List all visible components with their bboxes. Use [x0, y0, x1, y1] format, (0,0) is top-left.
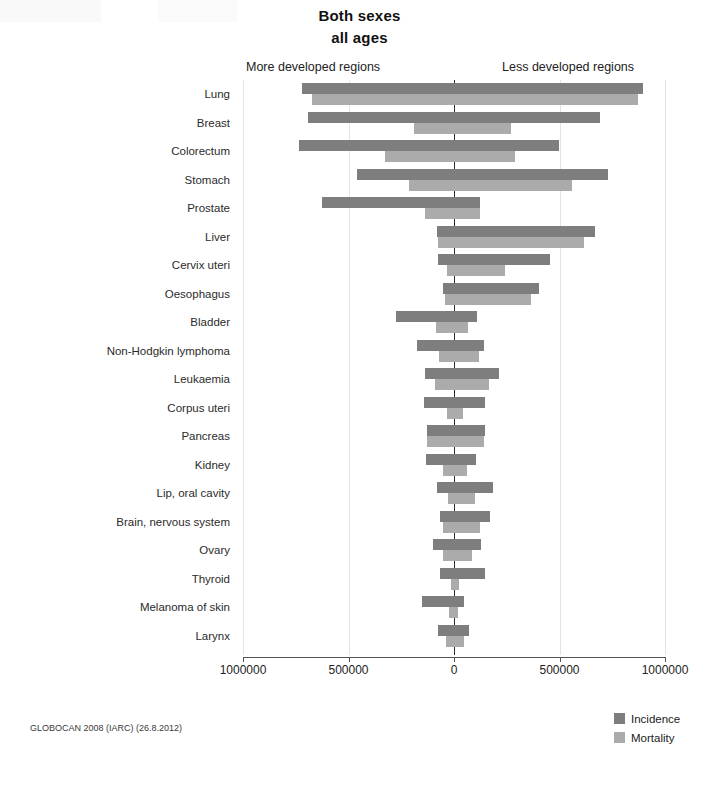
legend-item-incidence[interactable]: Incidence	[614, 709, 680, 728]
bar-incidence	[426, 454, 476, 465]
category-label: Colorectum	[171, 145, 230, 157]
legend: IncidenceMortality	[614, 709, 680, 747]
plot-area	[243, 80, 665, 655]
bar-row	[243, 311, 665, 333]
bar-incidence	[437, 482, 492, 493]
bar-mortality	[439, 351, 479, 362]
bar-row	[243, 197, 665, 219]
bar-mortality	[436, 322, 468, 333]
bar-row	[243, 425, 665, 447]
category-label: Breast	[197, 117, 230, 129]
bar-row	[243, 226, 665, 248]
category-label: Non-Hodgkin lymphoma	[107, 345, 230, 357]
bar-incidence	[322, 197, 480, 208]
bar-incidence	[357, 169, 608, 180]
bar-mortality	[449, 607, 459, 618]
axis-tick-label: 500000	[328, 663, 368, 677]
bar-row	[243, 511, 665, 533]
category-label: Stomach	[185, 174, 230, 186]
gridline	[665, 80, 666, 655]
category-label: Lip, oral cavity	[156, 487, 230, 499]
legend-item-mortality[interactable]: Mortality	[614, 728, 680, 747]
category-axis-labels: LungBreastColorectumStomachProstateLiver…	[0, 80, 236, 655]
bar-incidence	[396, 311, 477, 322]
bar-incidence	[443, 283, 539, 294]
bar-incidence	[433, 539, 481, 550]
page-subtitle: all ages	[0, 28, 719, 48]
bar-mortality	[448, 493, 475, 504]
bar-mortality	[445, 294, 531, 305]
category-label: Pancreas	[181, 430, 230, 442]
axis-tick	[454, 657, 455, 662]
category-label: Thyroid	[192, 573, 230, 585]
axis-tick	[243, 657, 244, 662]
bar-row	[243, 368, 665, 390]
axis-tick-label: 0	[451, 663, 458, 677]
category-label: Lung	[204, 88, 230, 100]
bar-incidence	[424, 397, 485, 408]
source-note: GLOBOCAN 2008 (IARC) (26.8.2012)	[30, 723, 182, 733]
left-region-header: More developed regions	[246, 60, 380, 74]
bar-mortality	[409, 180, 572, 191]
axis-tick	[349, 657, 350, 662]
category-label: Cervix uteri	[172, 259, 230, 271]
axis-tick-label: 500000	[539, 663, 579, 677]
bar-incidence	[440, 511, 490, 522]
bar-mortality	[443, 465, 467, 476]
bar-row	[243, 625, 665, 647]
bar-row	[243, 454, 665, 476]
bar-row	[243, 340, 665, 362]
bar-row	[243, 140, 665, 162]
bar-mortality	[435, 379, 489, 390]
right-region-header: Less developed regions	[502, 60, 634, 74]
bar-incidence	[308, 112, 600, 123]
category-label: Larynx	[195, 630, 230, 642]
category-label: Ovary	[199, 544, 230, 556]
bar-mortality	[443, 550, 473, 561]
bar-mortality	[385, 151, 515, 162]
axis-tick-label: 1000000	[220, 663, 267, 677]
bar-row	[243, 83, 665, 105]
bar-incidence	[437, 226, 595, 237]
bar-mortality	[443, 522, 480, 533]
bar-incidence	[438, 625, 470, 636]
bar-mortality	[451, 579, 459, 590]
bar-row	[243, 112, 665, 134]
bar-incidence	[425, 368, 499, 379]
bar-mortality	[312, 94, 638, 105]
legend-label: Incidence	[631, 713, 680, 725]
bar-row	[243, 539, 665, 561]
legend-label: Mortality	[631, 732, 674, 744]
bar-incidence	[417, 340, 483, 351]
bar-mortality	[438, 237, 584, 248]
page-title: Both sexes	[0, 6, 719, 26]
bar-mortality	[447, 265, 505, 276]
category-label: Liver	[205, 231, 230, 243]
category-label: Brain, nervous system	[116, 516, 230, 528]
category-label: Leukaemia	[174, 373, 230, 385]
category-label: Kidney	[195, 459, 230, 471]
category-label: Oesophagus	[165, 288, 230, 300]
bar-incidence	[302, 83, 643, 94]
axis-tick	[560, 657, 561, 662]
bar-incidence	[440, 568, 485, 579]
category-label: Prostate	[187, 202, 230, 214]
legend-swatch-icon	[614, 732, 625, 743]
bar-mortality	[414, 123, 511, 134]
legend-swatch-icon	[614, 713, 625, 724]
bar-row	[243, 482, 665, 504]
bar-mortality	[446, 636, 464, 647]
bar-row	[243, 283, 665, 305]
bar-incidence	[427, 425, 486, 436]
bar-incidence	[422, 596, 464, 607]
bar-row	[243, 169, 665, 191]
bar-mortality	[447, 408, 463, 419]
category-label: Bladder	[190, 316, 230, 328]
bar-row	[243, 568, 665, 590]
bar-mortality	[425, 208, 479, 219]
category-label: Corpus uteri	[167, 402, 230, 414]
axis-tick-label: 1000000	[642, 663, 689, 677]
bar-incidence	[299, 140, 559, 151]
bar-incidence	[438, 254, 550, 265]
bar-mortality	[427, 436, 484, 447]
